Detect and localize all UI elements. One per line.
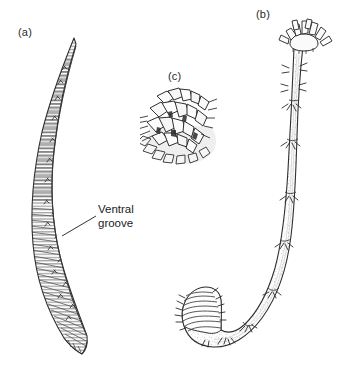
panel-c-drawing bbox=[137, 88, 217, 164]
figure-container: (a) (b) (c) Ventral groove bbox=[0, 0, 349, 375]
panel-b-annulated-posterior bbox=[175, 287, 226, 333]
ventral-groove-line-1: Ventral bbox=[98, 203, 134, 217]
panel-label-a: (a) bbox=[18, 26, 32, 38]
ventral-groove-line-2: groove bbox=[98, 217, 134, 231]
ventral-groove-annotation: Ventral groove bbox=[98, 203, 134, 230]
panel-b-drawing bbox=[175, 19, 332, 355]
panel-label-b: (b) bbox=[256, 8, 270, 20]
ventral-groove-leader bbox=[62, 216, 96, 236]
panel-b-tentacular-crown bbox=[279, 19, 332, 54]
panel-a-hatching bbox=[25, 35, 104, 360]
panel-a-drawing bbox=[25, 35, 104, 360]
illustration-canvas bbox=[0, 0, 349, 375]
panel-label-c: (c) bbox=[168, 70, 181, 82]
